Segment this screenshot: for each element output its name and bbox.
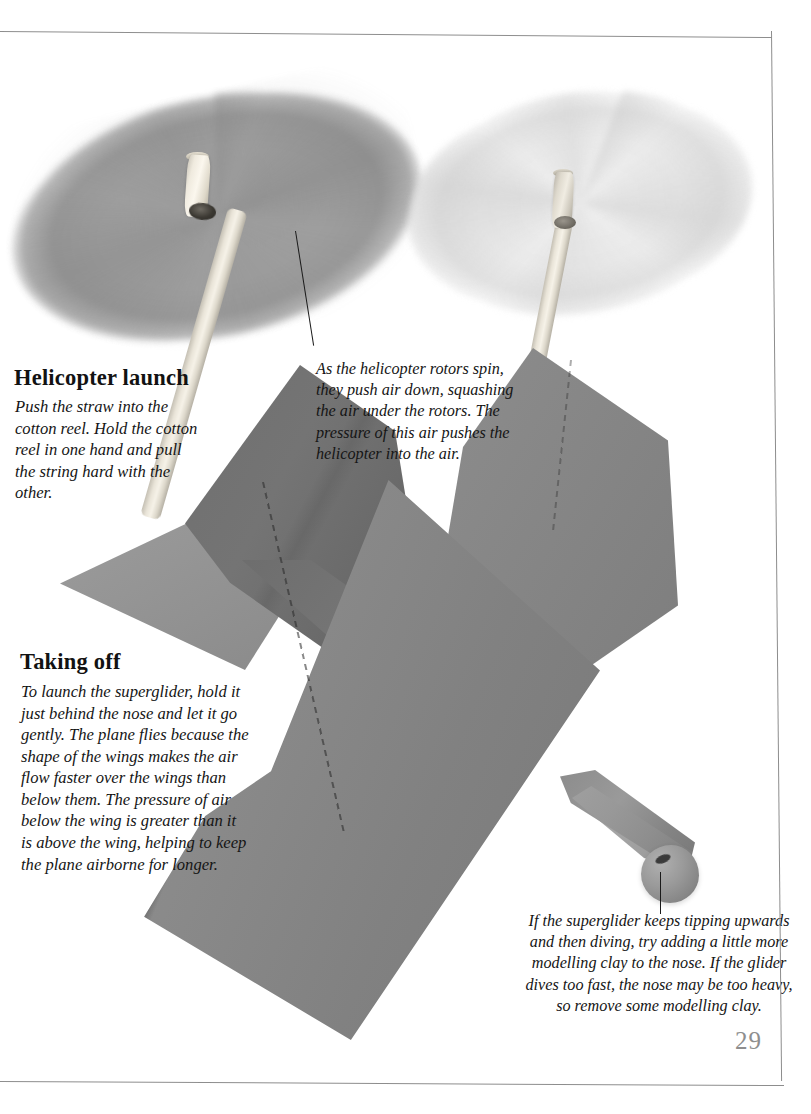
taking-off-body: To launch the superglider, hold it just … (21, 681, 249, 875)
leader-line-nose (660, 872, 661, 914)
glider-nose-caption: If the superglider keeps tipping upwards… (518, 911, 800, 1017)
book-page: Helicopter launch Push the straw into th… (0, 0, 811, 1114)
modelling-clay-ball-icon (641, 845, 699, 903)
page-border-bottom (0, 1081, 784, 1086)
taking-off-heading: Taking off (20, 650, 250, 675)
helicopter-launch-body: Push the straw into the cotton reel. Hol… (15, 396, 205, 504)
helicopter-launch-heading: Helicopter launch (14, 366, 244, 391)
page-border-top (0, 31, 772, 38)
rotor-right-hub (554, 216, 576, 229)
page-number: 29 (735, 1027, 762, 1055)
rotor-caption: As the helicopter rotors spin, they push… (316, 359, 521, 465)
